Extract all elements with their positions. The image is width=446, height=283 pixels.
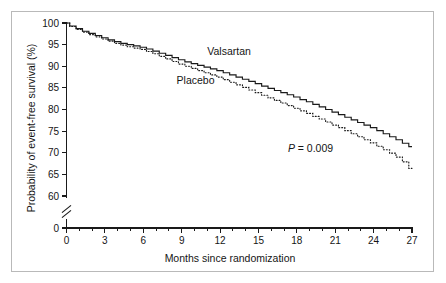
y-axis-break-mark	[62, 205, 71, 217]
p-value-symbol: P	[288, 142, 295, 154]
x-tick-label: 21	[330, 235, 342, 246]
x-tick-label: 27	[406, 235, 418, 246]
x-tick-label: 6	[140, 235, 146, 246]
y-tick-label: 100	[42, 18, 59, 29]
y-tick-label: 60	[48, 191, 60, 202]
y-tick-label: 70	[48, 147, 60, 158]
x-tick-label: 15	[253, 235, 265, 246]
x-tick-label: 9	[179, 235, 185, 246]
p-value-annotation: P = 0.009	[288, 142, 333, 154]
series-label-placebo: Placebo	[177, 74, 215, 86]
y-tick-label: 85	[48, 82, 60, 93]
x-axis-title: Months since randomization	[165, 252, 296, 264]
survival-chart: Probability of event-free survival (%) M…	[0, 0, 446, 283]
y-tick-label-zero: 0	[53, 223, 59, 234]
y-tick-label: 90	[48, 61, 60, 72]
y-tick-label: 65	[48, 169, 60, 180]
y-tick-label: 80	[48, 104, 60, 115]
x-tick-label: 12	[214, 235, 226, 246]
y-tick-label: 75	[48, 126, 60, 137]
y-axis-title: Probability of event-free survival (%)	[25, 44, 37, 213]
p-value-number: = 0.009	[295, 142, 333, 154]
x-axis-ticks: 0369121518212427	[64, 228, 418, 246]
x-tick-label: 18	[291, 235, 303, 246]
x-tick-label: 24	[368, 235, 380, 246]
y-tick-label: 95	[48, 39, 60, 50]
x-tick-label: 0	[64, 235, 70, 246]
figure-root: Probability of event-free survival (%) M…	[0, 0, 446, 283]
y-axis-ticks: 60657075808590951000	[42, 18, 66, 234]
series-label-valsartan: Valsartan	[207, 45, 251, 57]
x-tick-label: 3	[102, 235, 108, 246]
